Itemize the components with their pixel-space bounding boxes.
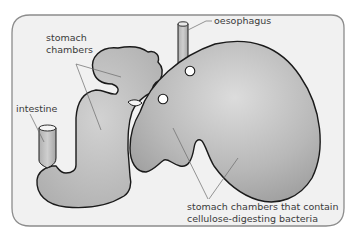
label-bacteria-chambers-line2: cellulose-digesting bacteria xyxy=(187,213,318,224)
label-bacteria-chambers-line1: stomach chambers that contain xyxy=(187,201,338,212)
opening-upper xyxy=(185,66,195,76)
label-intestine: intestine xyxy=(16,103,58,114)
label-oesophagus: oesophagus xyxy=(214,15,271,26)
opening-lower xyxy=(158,94,168,104)
label-stomach-chambers-line1: stomach xyxy=(46,32,87,43)
intestine-tube xyxy=(39,125,56,168)
label-stomach-chambers-line2: chambers xyxy=(46,44,93,55)
ruminant-stomach-diagram: oesophagus stomach chambers intestine st… xyxy=(0,0,349,240)
